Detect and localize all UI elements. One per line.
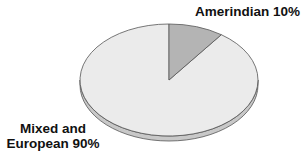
label-mixed-line1: Mixed and bbox=[3, 121, 103, 136]
label-mixed-and-european: Mixed and European 90% bbox=[3, 121, 103, 151]
label-mixed-line2: European 90% bbox=[3, 136, 103, 151]
label-amerindian: Amerindian 10% bbox=[195, 4, 300, 19]
